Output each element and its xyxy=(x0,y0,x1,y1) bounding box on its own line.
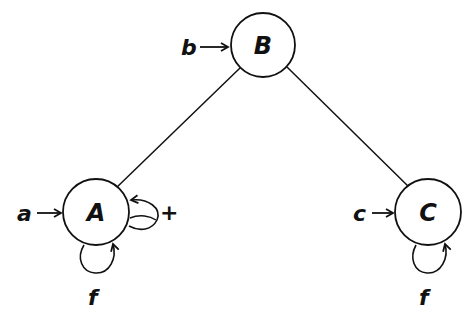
edge-b-c xyxy=(287,67,412,190)
self-loop-c-f: f xyxy=(413,244,446,310)
diagram-canvas: B b A a + f C c f xyxy=(0,0,473,320)
edge-b-a xyxy=(115,68,240,189)
input-c-label: c xyxy=(353,201,366,226)
node-b-label: B xyxy=(254,32,272,60)
node-a-label: A xyxy=(85,199,106,227)
loop-a-f-label: f xyxy=(88,285,100,310)
node-c-label: C xyxy=(419,199,437,227)
input-a: a xyxy=(17,201,61,226)
self-loop-a-f: f xyxy=(80,244,114,310)
input-c: c xyxy=(353,201,393,226)
self-loop-a-plus: + xyxy=(129,200,178,230)
input-b: b xyxy=(181,35,228,60)
loop-a-plus-label: + xyxy=(160,200,178,225)
node-a[interactable]: A xyxy=(63,179,129,245)
loop-c-f-label: f xyxy=(419,285,431,310)
node-b[interactable]: B xyxy=(231,13,295,77)
input-b-label: b xyxy=(181,35,197,60)
node-c[interactable]: C xyxy=(395,179,461,245)
input-a-label: a xyxy=(17,201,32,226)
